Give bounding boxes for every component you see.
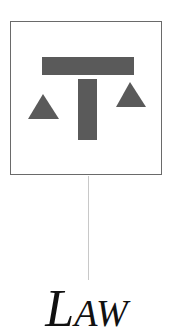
scales-of-justice-icon	[0, 0, 173, 330]
connector-line	[88, 176, 89, 280]
scale-post	[78, 79, 97, 140]
right-pan-triangle	[116, 82, 146, 107]
label-first-letter: L	[45, 280, 74, 330]
label-rest: AW	[74, 292, 127, 330]
left-pan-triangle	[28, 94, 59, 119]
scale-beam	[42, 57, 134, 75]
law-label: LAW	[0, 283, 173, 330]
